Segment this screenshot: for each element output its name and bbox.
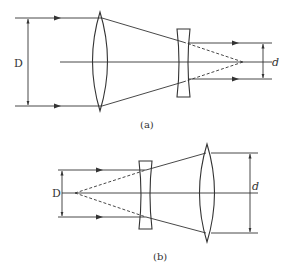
optics-diagram: D d (a) D d (b): [0, 0, 287, 276]
converging-ray-bottom: [102, 82, 183, 106]
virtual-ray-top: [75, 170, 146, 193]
caption-b: (b): [153, 251, 167, 262]
ray-arrow-icon: [96, 215, 103, 220]
incoming-ray-top: [58, 168, 146, 173]
concave-lens: [177, 29, 190, 97]
diverging-ray-bottom: [146, 217, 206, 233]
label-D-a: D: [14, 57, 23, 70]
ray-arrow-icon: [96, 168, 103, 173]
virtual-ray-bottom: [75, 193, 146, 217]
diverging-ray-top: [146, 153, 206, 170]
outgoing-ray-top: [188, 41, 272, 46]
converging-ray-top: [102, 18, 183, 42]
panel-b: [58, 144, 258, 242]
ray-arrow-icon: [54, 16, 61, 21]
label-D-b: D: [52, 187, 61, 200]
label-d-b: d: [252, 180, 259, 193]
ray-arrow-icon: [232, 41, 239, 46]
label-d-a: d: [272, 56, 279, 69]
convex-lens: [93, 12, 108, 111]
panel-a: [15, 12, 272, 111]
ray-arrow-icon: [54, 104, 61, 109]
caption-a: (a): [140, 119, 154, 130]
outgoing-ray-bottom: [188, 77, 272, 82]
concave-lens: [139, 161, 152, 229]
virtual-ray-top: [183, 42, 243, 62]
ray-arrow-icon: [232, 77, 239, 82]
incoming-ray-bottom: [58, 215, 146, 220]
